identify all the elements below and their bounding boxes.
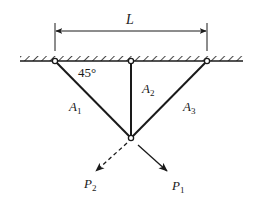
dimension-label: L	[125, 12, 134, 27]
pin-left-icon	[52, 58, 57, 63]
member-label-a2: A2	[141, 81, 154, 98]
member-a3	[131, 61, 207, 138]
pin-joint-icon	[128, 135, 133, 140]
member-label-a3: A3	[182, 99, 196, 116]
pin-right-icon	[204, 58, 209, 63]
dimension-L: L	[55, 12, 207, 51]
loads	[96, 143, 167, 171]
angle-label: 45°	[78, 65, 96, 80]
load-p2-arrow	[96, 143, 127, 171]
truss-diagram: L 45° A1 A2 A3 P1 P2	[0, 0, 260, 199]
load-label-p2: P2	[83, 176, 96, 193]
pin-middle-icon	[128, 58, 133, 63]
load-p1-arrow	[138, 145, 167, 171]
member-label-a1: A1	[68, 99, 81, 116]
load-label-p1: P1	[171, 178, 184, 195]
